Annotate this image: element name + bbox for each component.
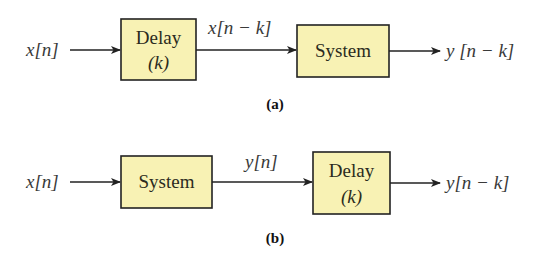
output-label-b: y[n − k] <box>444 172 509 193</box>
system-label-a: System <box>315 40 371 61</box>
caption-a: (a) <box>266 96 284 113</box>
input-label-b: x[n] <box>25 171 59 192</box>
block-diagram: x[n] Delay (k) x[n − k] System y [n − k]… <box>0 0 544 263</box>
input-label-a: x[n] <box>25 39 59 60</box>
delay-block-a: Delay (k) <box>121 19 196 80</box>
intermediate-label-a: x[n − k] <box>207 17 271 38</box>
output-label-a: y [n − k] <box>444 40 514 61</box>
intermediate-label-b: y[n] <box>243 151 278 172</box>
system-block-b: System <box>121 156 212 208</box>
delay-label-b: Delay <box>329 160 375 181</box>
caption-b: (b) <box>266 230 284 247</box>
system-block-a: System <box>297 25 389 77</box>
delay-param-a: (k) <box>148 52 169 74</box>
delay-param-b: (k) <box>341 186 362 208</box>
diagram-b: x[n] System y[n] Delay (k) y[n − k] (b) <box>25 151 509 247</box>
delay-block-b: Delay (k) <box>313 152 390 214</box>
diagram-a: x[n] Delay (k) x[n − k] System y [n − k]… <box>25 17 514 113</box>
system-label-b: System <box>139 171 195 192</box>
delay-label-a: Delay <box>136 27 182 48</box>
